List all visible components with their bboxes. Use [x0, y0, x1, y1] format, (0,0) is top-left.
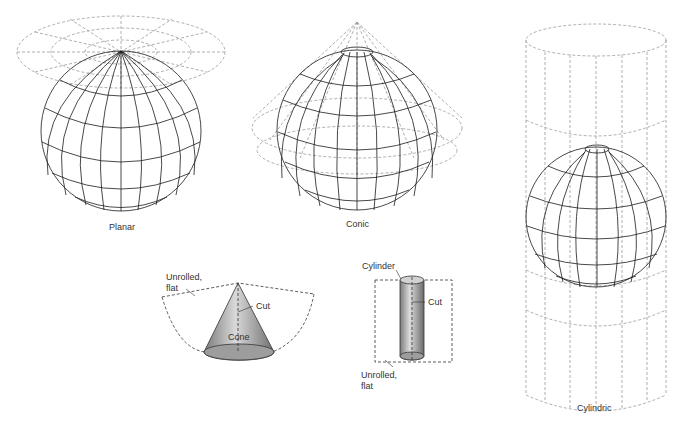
conic-globe — [277, 47, 437, 210]
cylindric-caption: Cylindric — [577, 403, 612, 413]
cylinder-cut-label: Cut — [428, 297, 442, 307]
cylinder-flat-label: flat — [361, 381, 373, 391]
map-projection-diagram — [0, 0, 682, 425]
cylinder-unrolled-label: Unrolled, — [361, 370, 397, 380]
cone-flat-label: flat — [166, 283, 178, 293]
cylindric-projection — [526, 24, 666, 411]
planar-caption: Planar — [109, 222, 135, 232]
planar-projection — [17, 16, 225, 211]
cone-unrolled-label: Unrolled, — [166, 272, 202, 282]
cone-cut-label: Cut — [256, 301, 270, 311]
cylindric-cylinder — [526, 24, 666, 411]
cone-unrolled-detail — [162, 283, 314, 360]
conic-caption: Conic — [346, 219, 369, 229]
cylinder-shape-label: Cylinder — [362, 261, 395, 271]
planar-globe — [41, 51, 201, 211]
cone-shape-label: Cone — [228, 332, 250, 342]
conic-projection — [252, 22, 462, 210]
cylinder-unrolled-detail — [375, 270, 452, 367]
